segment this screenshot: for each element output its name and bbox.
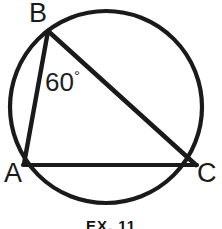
figure-caption: EX. 11 — [0, 218, 222, 229]
degree-symbol: ° — [74, 67, 80, 84]
angle-measure-label: 60° — [45, 68, 80, 95]
circumscribed-circle — [10, 11, 202, 203]
segment-bc — [48, 31, 196, 165]
vertex-label-b: B — [29, 0, 47, 27]
angle-measure-value: 60 — [45, 67, 74, 97]
vertex-label-a: A — [4, 160, 22, 187]
geometry-canvas — [0, 0, 222, 229]
vertex-label-c: C — [197, 160, 217, 187]
geometry-figure: B A C 60° EX. 11 — [0, 0, 222, 229]
